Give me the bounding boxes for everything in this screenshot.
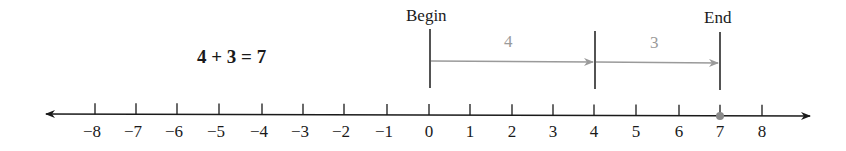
tick-label: 2 [508, 122, 517, 142]
tick-label: 3 [549, 122, 558, 142]
tick-label: 4 [590, 122, 599, 142]
begin-label: Begin [406, 6, 447, 26]
step-label-4: 4 [504, 32, 513, 52]
tick-label: 1 [466, 122, 475, 142]
tick-label: −6 [165, 122, 183, 142]
tick-label: 6 [675, 122, 684, 142]
result-point [716, 112, 724, 120]
step-arrow-4 [431, 61, 593, 62]
step-label-3: 3 [650, 33, 659, 53]
equation-label: 4 + 3 = 7 [197, 46, 266, 68]
tick-label: −2 [332, 122, 350, 142]
tick-label: −4 [250, 122, 268, 142]
end-label: End [704, 8, 731, 28]
number-line-axis [46, 114, 810, 116]
tick-label: −5 [207, 122, 225, 142]
tick-label: −8 [83, 122, 101, 142]
tick-label: 5 [632, 122, 641, 142]
tick-label: 0 [425, 122, 434, 142]
tick-label: 7 [716, 122, 725, 142]
tick-label: −3 [291, 122, 309, 142]
tick-label: −1 [375, 122, 393, 142]
step-arrow-3 [596, 62, 718, 63]
number-line-diagram: 4 + 3 = 7 Begin End 4 3 −8−7−6−5−4−3−2−1… [0, 0, 846, 151]
tick-label: 8 [758, 122, 767, 142]
tick-label: −7 [124, 122, 142, 142]
